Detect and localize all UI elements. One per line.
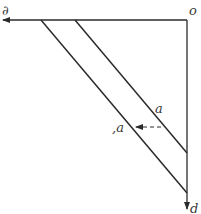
line-lower-label: ,a <box>112 120 124 135</box>
line-upper <box>75 20 187 153</box>
line-upper-label: a <box>155 101 163 116</box>
economics-diagram: ∂ o d a ,a <box>0 0 201 214</box>
line-lower <box>41 20 187 193</box>
horizontal-axis-label: ∂ <box>2 3 9 18</box>
vertical-axis-label: d <box>190 201 198 214</box>
origin-label: o <box>189 3 197 18</box>
